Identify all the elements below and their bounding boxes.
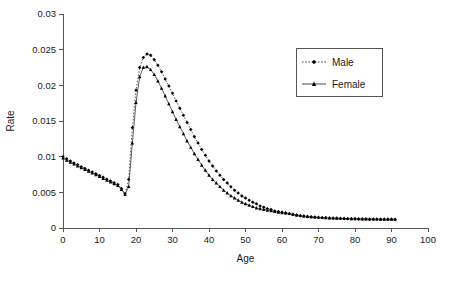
x-axis-tick-label: 0 <box>60 234 65 245</box>
data-point-male <box>236 191 240 195</box>
x-axis-tick-label: 90 <box>386 234 397 245</box>
data-point-male <box>174 99 178 103</box>
data-point-male <box>171 91 175 95</box>
data-point-male <box>185 121 189 125</box>
x-axis-tick-label: 20 <box>131 234 142 245</box>
x-axis: 0102030405060708090100 <box>60 228 436 245</box>
x-axis-tick-label: 10 <box>94 234 105 245</box>
legend-label-male: Male <box>332 57 354 68</box>
data-point-male <box>247 198 251 202</box>
data-point-female <box>149 68 152 71</box>
chart-plot-area: 00.0050.010.0150.020.0250.03 01020304050… <box>0 0 451 284</box>
data-point-female <box>174 118 177 121</box>
data-point-female <box>178 125 181 128</box>
y-axis: 00.0050.010.0150.020.0250.03 <box>32 8 63 233</box>
x-axis-tick-label: 100 <box>420 234 436 245</box>
legend-label-female: Female <box>332 79 366 90</box>
data-point-male <box>193 135 197 139</box>
data-point-male <box>127 178 131 182</box>
x-axis-tick-label: 70 <box>313 234 324 245</box>
data-point-male <box>167 84 171 88</box>
data-point-male <box>178 106 182 110</box>
y-axis-tick-label: 0.005 <box>32 187 56 198</box>
data-point-male <box>182 114 186 118</box>
x-axis-tick-label: 50 <box>240 234 251 245</box>
data-point-male <box>196 141 200 145</box>
x-axis-tick-label: 40 <box>204 234 215 245</box>
data-point-male <box>200 148 204 152</box>
chart-legend: MaleFemale <box>296 48 382 96</box>
y-axis-tick-label: 0.01 <box>38 151 57 162</box>
y-axis-tick-label: 0.025 <box>32 44 56 55</box>
data-point-female <box>182 132 185 135</box>
data-point-male <box>255 202 259 206</box>
y-axis-tick-label: 0 <box>51 222 56 233</box>
x-axis-tick-label: 80 <box>350 234 361 245</box>
data-point-male <box>229 185 233 189</box>
data-point-female <box>185 139 188 142</box>
data-point-female <box>164 94 167 97</box>
y-axis-title: Rate <box>5 110 16 132</box>
y-axis-tick-label: 0.02 <box>38 80 57 91</box>
y-axis-tick-label: 0.03 <box>38 8 57 19</box>
data-point-male <box>218 173 222 177</box>
data-point-male <box>189 128 193 132</box>
x-axis-tick-label: 30 <box>167 234 178 245</box>
x-axis-tick-label: 60 <box>277 234 288 245</box>
data-point-female <box>160 86 163 89</box>
y-axis-tick-label: 0.015 <box>32 115 56 126</box>
data-point-female <box>171 110 174 113</box>
data-point-female <box>167 102 170 105</box>
data-point-male <box>163 77 167 81</box>
data-point-female <box>229 194 232 197</box>
data-point-male <box>138 66 142 70</box>
data-point-male <box>160 70 164 74</box>
data-point-male <box>244 196 248 200</box>
data-point-female <box>226 191 229 194</box>
data-point-female <box>145 65 148 68</box>
data-point-female <box>127 185 130 188</box>
chart-figure: 00.0050.010.0150.020.0250.03 01020304050… <box>0 0 451 284</box>
data-point-male <box>142 56 146 60</box>
x-axis-title: Age <box>237 253 255 264</box>
data-point-male <box>251 201 255 205</box>
